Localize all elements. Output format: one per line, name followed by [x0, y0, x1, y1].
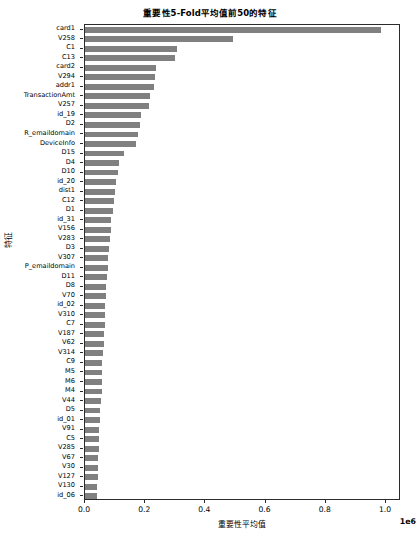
bar-row	[85, 417, 399, 423]
y-tick-label-C9: C9	[66, 358, 75, 365]
y-tick-mark	[80, 238, 83, 239]
y-tick-mark	[80, 162, 83, 163]
bar-row	[85, 274, 399, 280]
y-tick-label-id_06: id_06	[57, 492, 75, 499]
y-tick-mark	[80, 448, 83, 449]
y-tick-mark	[80, 495, 83, 496]
bar-V258	[85, 36, 233, 42]
y-tick-label-V91: V91	[62, 425, 75, 432]
y-tick-label-C12: C12	[62, 197, 75, 204]
bar-row	[85, 370, 399, 376]
y-tick-mark	[80, 143, 83, 144]
bar-V67	[85, 455, 98, 461]
y-tick-label-V156: V156	[58, 225, 75, 232]
bar-TransactionAmt	[85, 93, 150, 99]
y-tick-mark	[80, 86, 83, 87]
bar-row	[85, 55, 399, 61]
bar-row	[85, 408, 399, 414]
bar-id_02	[85, 303, 105, 309]
y-tick-mark	[80, 153, 83, 154]
y-tick-label-M4: M4	[65, 387, 75, 394]
bar-row	[85, 255, 399, 261]
bar-row	[85, 493, 399, 499]
y-tick-mark	[80, 38, 83, 39]
y-tick-mark	[80, 267, 83, 268]
bar-row	[85, 455, 399, 461]
bar-M4	[85, 389, 102, 395]
y-tick-label-V257: V257	[58, 101, 75, 108]
y-tick-label-dist1: dist1	[59, 187, 75, 194]
x-tick-label: 0.0	[78, 505, 90, 514]
bar-D1	[85, 208, 113, 214]
bar-row	[85, 227, 399, 233]
bar-V285	[85, 446, 99, 452]
y-tick-mark	[80, 429, 83, 430]
bar-row	[85, 112, 399, 118]
y-tick-mark	[80, 410, 83, 411]
y-tick-label-D4: D4	[66, 159, 75, 166]
bar-V187	[85, 331, 104, 337]
bar-V310	[85, 312, 105, 318]
y-tick-mark	[80, 57, 83, 58]
bar-C7	[85, 322, 105, 328]
bar-row	[85, 217, 399, 223]
y-tick-label-V30: V30	[62, 463, 75, 470]
bar-row	[85, 246, 399, 252]
bar-M5	[85, 370, 102, 376]
y-tick-label-V258: V258	[58, 35, 75, 42]
y-tick-mark	[80, 400, 83, 401]
bar-V307	[85, 255, 108, 261]
y-tick-mark	[80, 381, 83, 382]
y-tick-mark	[80, 181, 83, 182]
bar-id_01	[85, 417, 100, 423]
bar-id_19	[85, 112, 141, 118]
bar-D4	[85, 160, 119, 166]
y-tick-label-id_31: id_31	[57, 216, 75, 223]
bar-V257	[85, 103, 149, 109]
bar-id_31	[85, 217, 111, 223]
x-tick-label: 0.6	[259, 505, 271, 514]
x-tick-label: 0.2	[138, 505, 150, 514]
bar-row	[85, 236, 399, 242]
bar-C9	[85, 360, 102, 366]
bar-addr1	[85, 84, 154, 90]
y-tick-mark	[80, 76, 83, 77]
y-tick-label-R_emaildomain: R_emaildomain	[24, 130, 75, 137]
bar-D11	[85, 274, 107, 280]
bar-P_emaildomain	[85, 265, 108, 271]
y-tick-label-card2: card2	[56, 63, 75, 70]
y-tick-mark	[80, 133, 83, 134]
y-tick-mark	[80, 438, 83, 439]
bar-V127	[85, 474, 98, 480]
y-tick-label-C13: C13	[62, 54, 75, 61]
bar-id_20	[85, 179, 116, 185]
y-tick-mark	[80, 343, 83, 344]
bar-R_emaildomain	[85, 132, 138, 138]
x-tick-mark	[385, 500, 386, 503]
y-tick-mark	[80, 314, 83, 315]
bar-row	[85, 341, 399, 347]
y-tick-mark	[80, 105, 83, 106]
bar-row	[85, 427, 399, 433]
bar-row	[85, 74, 399, 80]
bar-V70	[85, 293, 106, 299]
y-tick-mark	[80, 486, 83, 487]
x-tick-mark	[84, 500, 85, 503]
y-tick-label-TransactionAmt: TransactionAmt	[24, 92, 75, 99]
y-tick-mark	[80, 219, 83, 220]
y-tick-label-M6: M6	[65, 378, 75, 385]
y-tick-mark	[80, 457, 83, 458]
y-tick-mark	[80, 67, 83, 68]
bar-row	[85, 293, 399, 299]
y-tick-mark	[80, 95, 83, 96]
y-tick-label-id_19: id_19	[57, 111, 75, 118]
chart-title: 重要性5-Fold平均值前50的特征	[0, 6, 420, 18]
bar-row	[85, 84, 399, 90]
y-tick-mark	[80, 29, 83, 30]
bar-row	[85, 27, 399, 33]
y-axis-tick-labels: card1V258C1C13card2V294addr1TransactionA…	[0, 24, 80, 500]
y-tick-mark	[80, 352, 83, 353]
bar-row	[85, 350, 399, 356]
bar-V91	[85, 427, 99, 433]
bar-row	[85, 379, 399, 385]
